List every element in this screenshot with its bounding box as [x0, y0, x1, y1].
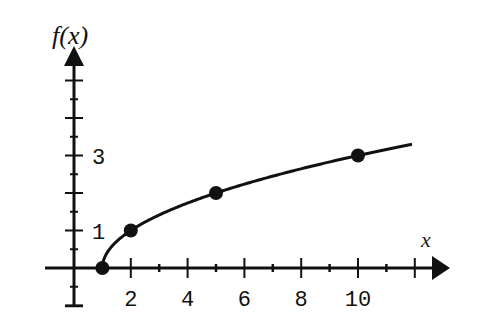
data-points [95, 149, 365, 276]
y-tick-label: 3 [92, 146, 105, 171]
function-curve [102, 144, 412, 268]
x-tick-label: 6 [238, 288, 251, 313]
x-tick-label: 4 [181, 288, 194, 313]
data-point-marker [209, 186, 223, 200]
x-tick-label: 8 [295, 288, 308, 313]
data-point-marker [351, 149, 365, 163]
y-axis-title: f(x) [52, 21, 88, 50]
x-axis-arrow-icon [432, 256, 450, 280]
curve [102, 144, 412, 268]
function-graph: 24681013f(x)x [0, 0, 487, 335]
data-point-marker [95, 261, 109, 275]
x-tick-label: 10 [345, 288, 371, 313]
y-tick-label: 1 [92, 221, 105, 246]
x-tick-label: 2 [124, 288, 137, 313]
data-point-marker [124, 224, 138, 238]
x-axis-title: x [420, 227, 431, 252]
